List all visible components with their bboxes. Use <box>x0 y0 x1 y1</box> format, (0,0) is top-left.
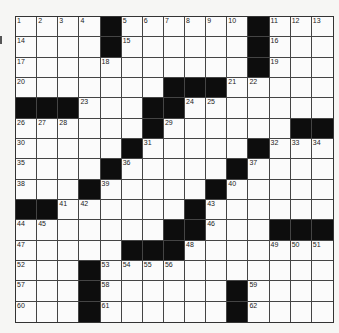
grid-cell[interactable] <box>122 281 143 301</box>
grid-cell[interactable]: 16 <box>270 37 291 57</box>
grid-cell[interactable] <box>227 241 248 261</box>
grid-cell[interactable]: 20 <box>16 78 37 98</box>
grid-cell[interactable] <box>206 37 227 57</box>
grid-cell[interactable]: 61 <box>101 302 122 322</box>
grid-cell[interactable]: 34 <box>312 139 333 159</box>
grid-cell[interactable] <box>248 119 269 139</box>
grid-cell[interactable] <box>101 220 122 240</box>
grid-cell[interactable]: 22 <box>248 78 269 98</box>
grid-cell[interactable] <box>58 281 79 301</box>
grid-cell[interactable]: 17 <box>16 58 37 78</box>
grid-cell[interactable] <box>227 98 248 118</box>
grid-cell[interactable] <box>79 119 100 139</box>
grid-cell[interactable] <box>37 261 58 281</box>
grid-cell[interactable] <box>227 37 248 57</box>
grid-cell[interactable]: 35 <box>16 159 37 179</box>
grid-cell[interactable] <box>143 281 164 301</box>
grid-cell[interactable] <box>185 302 206 322</box>
grid-cell[interactable] <box>37 78 58 98</box>
grid-cell[interactable] <box>79 37 100 57</box>
grid-cell[interactable]: 18 <box>101 58 122 78</box>
grid-cell[interactable]: 33 <box>291 139 312 159</box>
grid-cell[interactable] <box>185 261 206 281</box>
grid-cell[interactable] <box>143 180 164 200</box>
grid-cell[interactable] <box>164 281 185 301</box>
grid-cell[interactable] <box>270 98 291 118</box>
grid-cell[interactable] <box>206 241 227 261</box>
grid-cell[interactable] <box>122 119 143 139</box>
grid-cell[interactable]: 59 <box>248 281 269 301</box>
grid-cell[interactable]: 46 <box>206 220 227 240</box>
grid-cell[interactable] <box>58 58 79 78</box>
grid-cell[interactable] <box>185 281 206 301</box>
grid-cell[interactable] <box>312 200 333 220</box>
grid-cell[interactable]: 62 <box>248 302 269 322</box>
grid-cell[interactable]: 7 <box>164 17 185 37</box>
grid-cell[interactable]: 21 <box>227 78 248 98</box>
grid-cell[interactable] <box>291 261 312 281</box>
grid-cell[interactable] <box>122 200 143 220</box>
grid-cell[interactable] <box>143 159 164 179</box>
grid-cell[interactable] <box>312 58 333 78</box>
grid-cell[interactable]: 24 <box>185 98 206 118</box>
grid-cell[interactable] <box>58 241 79 261</box>
grid-cell[interactable] <box>291 78 312 98</box>
grid-cell[interactable] <box>58 78 79 98</box>
grid-cell[interactable]: 39 <box>101 180 122 200</box>
grid-cell[interactable] <box>143 302 164 322</box>
grid-cell[interactable] <box>270 281 291 301</box>
grid-cell[interactable]: 5 <box>122 17 143 37</box>
grid-cell[interactable]: 50 <box>291 241 312 261</box>
grid-cell[interactable]: 44 <box>16 220 37 240</box>
grid-cell[interactable]: 12 <box>291 17 312 37</box>
grid-cell[interactable] <box>79 139 100 159</box>
grid-cell[interactable] <box>206 139 227 159</box>
grid-cell[interactable]: 30 <box>16 139 37 159</box>
grid-cell[interactable] <box>206 58 227 78</box>
grid-cell[interactable]: 15 <box>122 37 143 57</box>
grid-cell[interactable] <box>122 220 143 240</box>
grid-cell[interactable] <box>227 139 248 159</box>
grid-cell[interactable] <box>143 220 164 240</box>
grid-cell[interactable] <box>312 159 333 179</box>
grid-cell[interactable] <box>227 261 248 281</box>
grid-cell[interactable]: 10 <box>227 17 248 37</box>
grid-cell[interactable] <box>312 78 333 98</box>
grid-cell[interactable] <box>312 37 333 57</box>
grid-cell[interactable]: 41 <box>58 200 79 220</box>
grid-cell[interactable] <box>37 241 58 261</box>
grid-cell[interactable] <box>101 78 122 98</box>
grid-cell[interactable] <box>270 180 291 200</box>
grid-cell[interactable] <box>248 220 269 240</box>
grid-cell[interactable] <box>185 159 206 179</box>
grid-cell[interactable]: 53 <box>101 261 122 281</box>
grid-cell[interactable]: 23 <box>79 98 100 118</box>
grid-cell[interactable] <box>312 302 333 322</box>
grid-cell[interactable] <box>248 200 269 220</box>
grid-cell[interactable] <box>206 159 227 179</box>
grid-cell[interactable] <box>122 180 143 200</box>
grid-cell[interactable] <box>227 58 248 78</box>
grid-cell[interactable] <box>58 302 79 322</box>
grid-cell[interactable]: 29 <box>164 119 185 139</box>
grid-cell[interactable]: 57 <box>16 281 37 301</box>
grid-cell[interactable] <box>291 98 312 118</box>
grid-cell[interactable]: 11 <box>270 17 291 37</box>
grid-cell[interactable]: 8 <box>185 17 206 37</box>
grid-cell[interactable] <box>185 37 206 57</box>
grid-cell[interactable]: 6 <box>143 17 164 37</box>
grid-cell[interactable] <box>206 261 227 281</box>
grid-cell[interactable]: 36 <box>122 159 143 179</box>
grid-cell[interactable]: 60 <box>16 302 37 322</box>
grid-cell[interactable] <box>291 302 312 322</box>
grid-cell[interactable]: 37 <box>248 159 269 179</box>
grid-cell[interactable]: 4 <box>79 17 100 37</box>
grid-cell[interactable] <box>164 302 185 322</box>
grid-cell[interactable] <box>270 78 291 98</box>
grid-cell[interactable]: 48 <box>185 241 206 261</box>
grid-cell[interactable] <box>164 139 185 159</box>
grid-cell[interactable] <box>58 261 79 281</box>
grid-cell[interactable] <box>185 139 206 159</box>
grid-cell[interactable]: 52 <box>16 261 37 281</box>
grid-cell[interactable]: 25 <box>206 98 227 118</box>
